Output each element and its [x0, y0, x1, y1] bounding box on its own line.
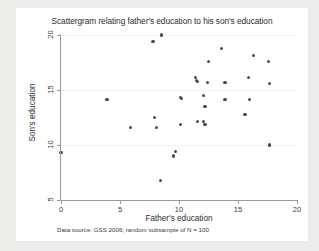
data-point — [172, 154, 175, 157]
y-tick-20 — [57, 35, 60, 36]
data-point — [267, 60, 270, 63]
gridline-y-10 — [61, 145, 297, 146]
x-tick-20 — [297, 201, 298, 204]
x-tick-0 — [61, 201, 62, 204]
gridline-y-20 — [61, 35, 297, 36]
y-tick-5 — [57, 200, 60, 201]
data-point — [248, 98, 251, 101]
y-tick-label-10: 10 — [46, 139, 55, 151]
y-tick-15 — [57, 90, 60, 91]
x-tick-label-0: 0 — [59, 205, 63, 214]
data-point — [174, 150, 177, 153]
chart-title: Scattergram relating father's education … — [16, 16, 308, 26]
data-point — [153, 116, 156, 119]
chart-footnote: Data source: GSS 2006; random subsample … — [57, 226, 209, 233]
data-point — [243, 113, 246, 116]
data-point — [206, 81, 209, 84]
y-tick-label-20: 20 — [46, 29, 55, 41]
data-point — [223, 98, 226, 101]
x-tick-10 — [179, 201, 180, 204]
data-point — [155, 126, 158, 129]
data-point — [179, 123, 182, 126]
data-point — [180, 97, 183, 100]
y-axis-line — [60, 34, 61, 201]
x-tick-label-15: 15 — [234, 205, 242, 214]
data-point — [247, 76, 250, 79]
data-point — [105, 98, 108, 101]
scatterplot-screenshot: Scattergram relating father's education … — [0, 0, 319, 251]
data-point — [196, 80, 199, 83]
y-axis-title: Son's education — [28, 73, 37, 153]
data-point — [268, 82, 271, 85]
data-point — [203, 105, 206, 108]
x-tick-5 — [120, 201, 121, 204]
x-tick-label-10: 10 — [175, 205, 183, 214]
gridline-y-15 — [61, 90, 297, 91]
plot-area — [61, 35, 297, 200]
x-tick-label-5: 5 — [118, 205, 122, 214]
data-point — [223, 81, 226, 84]
data-point — [151, 40, 154, 43]
data-point — [207, 60, 210, 63]
x-tick-15 — [238, 201, 239, 204]
data-point — [129, 126, 132, 129]
data-point — [196, 120, 199, 123]
data-point — [268, 143, 271, 146]
x-tick-label-20: 20 — [293, 205, 301, 214]
data-point — [202, 94, 205, 97]
data-point — [159, 179, 162, 182]
y-tick-label-5: 5 — [46, 194, 55, 206]
data-point — [160, 33, 163, 36]
y-tick-label-15: 15 — [46, 84, 55, 96]
x-axis-title: Father's education — [61, 214, 297, 223]
data-point — [203, 123, 206, 126]
data-point — [220, 47, 223, 50]
y-tick-10 — [57, 145, 60, 146]
data-point — [252, 54, 255, 57]
